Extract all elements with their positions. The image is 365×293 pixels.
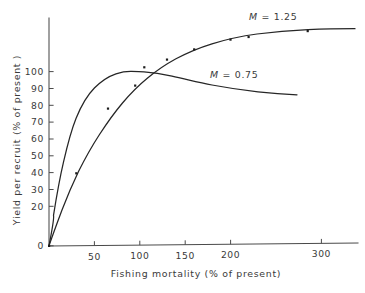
x-axis-line — [49, 243, 358, 246]
data-marker — [107, 108, 109, 110]
series-m-075 — [49, 71, 297, 245]
annotation-m-125-symbol: M — [249, 11, 258, 22]
curve-m-075 — [49, 71, 297, 245]
annotation-m-125: M = 1.25 — [249, 11, 297, 22]
y-tick-labels: 0 20 30 40 50 60 70 80 90 100 — [25, 66, 44, 251]
data-marker — [143, 66, 145, 68]
x-tick-label-50: 50 — [88, 251, 101, 262]
series-m-125 — [48, 29, 355, 247]
data-marker — [248, 36, 250, 38]
y-tick-label-40: 40 — [31, 167, 44, 178]
y-tick-label-50: 50 — [31, 150, 44, 161]
data-marker — [134, 85, 136, 87]
y-tick-label-70: 70 — [31, 116, 44, 127]
data-marker — [307, 30, 309, 32]
annotation-m-075: M = 0.75 — [210, 69, 258, 80]
y-tick-label-20: 20 — [31, 201, 44, 212]
y-axis-title: Yield per recruit (% of present ) — [11, 55, 22, 226]
chart-figure: 0 20 30 40 50 60 70 80 90 100 50 100 150… — [0, 0, 365, 293]
y-tick-label-100: 100 — [25, 66, 44, 77]
data-marker — [193, 48, 195, 50]
x-axis-title: Fishing mortality (% of present) — [111, 268, 281, 279]
annotation-m-075-symbol: M — [210, 69, 219, 80]
curve-m-125 — [49, 29, 355, 246]
x-tick-label-300: 300 — [312, 248, 331, 259]
x-tick-label-100: 100 — [130, 250, 149, 261]
x-tick-labels: 50 100 150 200 300 — [88, 248, 331, 261]
data-markers-m-125 — [48, 30, 309, 247]
annotation-m-125-value: = 1.25 — [258, 11, 298, 22]
y-tick-label-60: 60 — [31, 133, 44, 144]
chart-canvas: 0 20 30 40 50 60 70 80 90 100 50 100 150… — [0, 0, 365, 293]
annotation-m-075-value: = 0.75 — [219, 69, 259, 80]
axes-group — [49, 18, 358, 246]
data-marker — [48, 245, 50, 247]
y-tick-label-80: 80 — [31, 100, 44, 111]
y-tick-label-0: 0 — [38, 240, 44, 251]
data-marker — [75, 172, 77, 174]
x-tick-label-150: 150 — [176, 250, 195, 261]
data-marker — [229, 39, 231, 41]
x-tick-label-200: 200 — [221, 249, 240, 260]
y-tick-label-30: 30 — [31, 184, 44, 195]
y-tick-label-90: 90 — [31, 83, 44, 94]
data-marker — [166, 59, 168, 61]
